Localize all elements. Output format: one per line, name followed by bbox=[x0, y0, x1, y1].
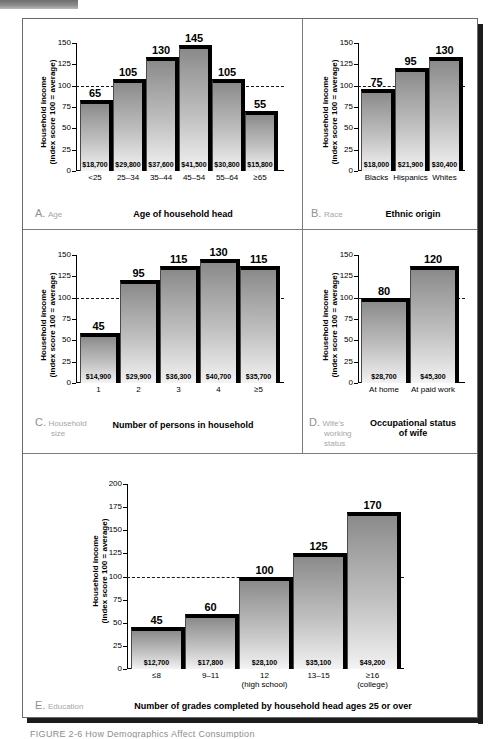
panel-b-y-axis bbox=[358, 43, 359, 171]
bar-a-0-label: <25 bbox=[88, 174, 102, 183]
panel-e-tick-50 bbox=[123, 623, 127, 624]
bar-b-0[interactable]: 75 $18,000 Blacks bbox=[361, 89, 395, 171]
panel-a-age: Household income (index score 100 = aver… bbox=[23, 19, 302, 229]
panel-d-tick-50 bbox=[354, 340, 358, 341]
panel-c-household-size: Household income (index score 100 = aver… bbox=[23, 230, 302, 453]
panel-d-tag-letter: D. bbox=[309, 416, 320, 428]
panel-c-ticklabel-125: 125 bbox=[58, 272, 71, 280]
panel-e-ticklabel-75: 75 bbox=[113, 596, 122, 604]
bar-c-4-amount: $35,700 bbox=[246, 373, 271, 380]
panel-a-y-axis-title: Household income (index score 100 = aver… bbox=[39, 47, 58, 177]
bar-a-2-amount: $37,600 bbox=[148, 161, 173, 168]
panel-b-tick-50 bbox=[354, 128, 358, 129]
bar-a-3-amount: $41,500 bbox=[181, 161, 206, 168]
panel-a-ticklabel-25: 25 bbox=[62, 146, 71, 154]
panel-d-ticklabel-125: 125 bbox=[340, 272, 353, 280]
panel-c-tag-name-line2: size bbox=[51, 429, 87, 439]
bar-d-1-amount: $45,300 bbox=[420, 373, 445, 380]
bar-a-4-amount: $30,800 bbox=[214, 161, 239, 168]
bar-a-3[interactable]: 145 $41,500 45–54 bbox=[179, 45, 212, 171]
panel-d-tick-25 bbox=[354, 362, 358, 363]
panel-c-ticklabel-25: 25 bbox=[62, 358, 71, 366]
bar-a-1-amount: $29,800 bbox=[115, 161, 140, 168]
panel-a-tag-name: Age bbox=[48, 210, 62, 219]
panel-a-tag: A. Age bbox=[35, 207, 62, 220]
panel-d-tag-name-line3: status bbox=[324, 439, 352, 449]
bar-c-4-label: ≥5 bbox=[254, 386, 263, 395]
panel-e-tag-letter: E. bbox=[35, 699, 45, 711]
panel-a-tick-25 bbox=[72, 150, 76, 151]
bar-c-0-label: 1 bbox=[96, 386, 100, 395]
bar-c-2-label: 3 bbox=[176, 386, 180, 395]
bar-e-4[interactable]: 170 $49,200 ≥16 (college) bbox=[347, 512, 401, 669]
panel-d-ticklabel-150: 150 bbox=[340, 251, 353, 259]
panel-a-tick-150 bbox=[72, 43, 76, 44]
bar-c-0[interactable]: 45 $14,900 1 bbox=[80, 333, 120, 383]
bar-b-2[interactable]: 130 $30,400 Whites bbox=[429, 57, 463, 171]
panel-a-ticklabel-0: 0 bbox=[67, 167, 71, 175]
bar-e-4-amount: $49,200 bbox=[360, 659, 385, 666]
panel-b-plot-area: 150 125 100 75 50 25 0 75 $18,000 Blacks… bbox=[358, 43, 465, 171]
bar-c-3-label: 4 bbox=[216, 386, 220, 395]
bar-c-2-amount: $36,300 bbox=[166, 373, 191, 380]
bar-c-2[interactable]: 115 $36,300 3 bbox=[160, 266, 200, 383]
bar-b-1-amount: $21,900 bbox=[398, 161, 423, 168]
bar-d-0[interactable]: 80 $28,700 At home bbox=[361, 298, 410, 383]
panel-b-ticklabel-125: 125 bbox=[340, 60, 353, 68]
panel-e-ticklabel-25: 25 bbox=[113, 642, 122, 650]
panel-c-ticklabel-50: 50 bbox=[62, 336, 71, 344]
bar-a-0[interactable]: 65 $18,700 <25 bbox=[80, 100, 113, 171]
bar-b-2-value: 130 bbox=[436, 44, 454, 56]
bar-a-1[interactable]: 105 $29,800 25–34 bbox=[113, 79, 146, 171]
panel-e-ticklabel-175: 175 bbox=[109, 503, 122, 511]
bar-a-5[interactable]: 55 $15,800 ≥65 bbox=[245, 111, 278, 171]
panel-c-tick-0 bbox=[72, 383, 76, 384]
panel-c-y-title-line1: Household income bbox=[39, 260, 48, 390]
bar-c-3[interactable]: 130 $40,700 4 bbox=[200, 259, 240, 383]
bar-a-2-label: 35–44 bbox=[150, 174, 172, 183]
bar-b-1[interactable]: 95 $21,900 Hispanics bbox=[395, 68, 429, 171]
bar-e-2-label: 12 (high school) bbox=[242, 672, 288, 690]
panel-e-tag-name: Education bbox=[48, 702, 84, 711]
panel-b-ticklabel-50: 50 bbox=[344, 124, 353, 132]
bar-d-0-value: 80 bbox=[378, 285, 390, 297]
bar-d-1-label: At paid work bbox=[411, 386, 455, 395]
panel-b-ticklabel-0: 0 bbox=[349, 167, 353, 175]
panel-b-y-title-line1: Household income bbox=[321, 47, 330, 177]
panel-c-ticklabel-100: 100 bbox=[58, 294, 71, 302]
bar-e-2[interactable]: 100 $28,100 12 (high school) bbox=[239, 577, 293, 670]
bar-a-5-value: 55 bbox=[254, 98, 266, 110]
bar-a-2[interactable]: 130 $37,600 35–44 bbox=[146, 57, 179, 171]
bar-d-1-value: 120 bbox=[424, 253, 442, 265]
bar-a-1-value: 105 bbox=[119, 66, 137, 78]
panel-b-tag-letter: B. bbox=[311, 207, 321, 219]
panel-e-y-axis-title: Household income (index score 100 = aver… bbox=[91, 476, 110, 666]
panel-c-y-title-line2: (index score 100 = average) bbox=[48, 260, 57, 390]
bar-c-1-amount: $29,900 bbox=[126, 373, 151, 380]
bar-a-4[interactable]: 105 $30,800 55–64 bbox=[212, 79, 245, 171]
bar-c-3-value: 130 bbox=[210, 246, 228, 258]
bar-e-0[interactable]: 45 $12,700 ≤8 bbox=[131, 627, 185, 669]
panel-b-y-title-line2: (index score 100 = average) bbox=[330, 47, 339, 177]
bar-b-1-value: 95 bbox=[405, 55, 417, 67]
bar-c-1[interactable]: 95 $29,900 2 bbox=[120, 280, 160, 383]
panel-c-x-axis-title: Number of persons in household bbox=[78, 420, 288, 430]
bar-e-3[interactable]: 125 $35,100 13–15 bbox=[293, 553, 347, 669]
panel-d-y-title-line2: (index score 100 = average) bbox=[330, 260, 339, 390]
panel-e-ticklabel-0: 0 bbox=[118, 665, 122, 673]
bar-c-3-amount: $40,700 bbox=[206, 373, 231, 380]
bar-c-4[interactable]: 115 $35,700 ≥5 bbox=[240, 266, 280, 383]
bar-e-1[interactable]: 60 $17,800 9–11 bbox=[185, 614, 239, 670]
panel-e-ticklabel-150: 150 bbox=[109, 526, 122, 534]
bar-c-1-label: 2 bbox=[136, 386, 140, 395]
panel-d-ticklabel-100: 100 bbox=[340, 294, 353, 302]
panel-a-tick-75 bbox=[72, 107, 76, 108]
page-header-bar bbox=[0, 0, 78, 9]
bar-d-0-amount: $28,700 bbox=[371, 373, 396, 380]
figure-shadow-bottom bbox=[27, 718, 483, 723]
panel-a-y-title-line1: Household income bbox=[39, 47, 48, 177]
panel-a-y-title-line2: (index score 100 = average) bbox=[48, 47, 57, 177]
bar-e-1-label-line1: 9–11 bbox=[202, 671, 219, 680]
panel-d-x-axis-title: Occupational status of wife bbox=[351, 418, 475, 439]
bar-d-1[interactable]: 120 $45,300 At paid work bbox=[410, 266, 459, 383]
